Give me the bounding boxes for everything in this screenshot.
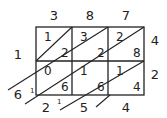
top-digit: 7 xyxy=(122,8,130,23)
cell-ones: 6 xyxy=(61,80,69,94)
cell-ones: 2 xyxy=(97,46,105,60)
right-digit: 2 xyxy=(151,67,159,82)
lattice-diagram: 3 8 7 4 2 1 2 3 2 2 8 0 6 1 6 1 4 1 6 1 … xyxy=(0,0,167,118)
cell-ones: 4 xyxy=(133,80,141,94)
right-digit: 4 xyxy=(151,33,159,48)
cell-ones: 6 xyxy=(97,80,105,94)
result-digit: 2 xyxy=(42,100,50,115)
result-digit: 6 xyxy=(14,87,22,102)
result-digit: 5 xyxy=(80,100,88,115)
cell-tens: 1 xyxy=(116,64,124,78)
result-digit: 4 xyxy=(122,100,130,115)
cell-tens: 3 xyxy=(80,30,88,44)
cell-tens: 2 xyxy=(116,30,124,44)
top-digit: 8 xyxy=(86,8,94,23)
cell-tens: 1 xyxy=(80,64,88,78)
cell-tens: 1 xyxy=(44,30,52,44)
cell-ones: 8 xyxy=(133,46,141,60)
result-digit: 1 xyxy=(14,47,22,62)
cell-ones: 2 xyxy=(61,46,69,60)
top-digit: 3 xyxy=(50,8,58,23)
carry: 1 xyxy=(57,98,61,106)
carry: 1 xyxy=(30,87,34,95)
cell-tens: 0 xyxy=(44,64,52,78)
